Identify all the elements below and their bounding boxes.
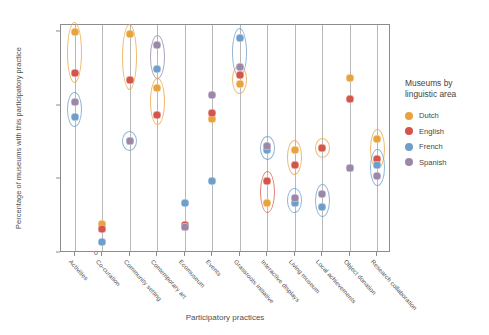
data-point bbox=[373, 172, 381, 180]
legend-swatch-icon bbox=[405, 158, 413, 166]
data-point bbox=[236, 71, 244, 79]
data-point bbox=[318, 203, 326, 211]
data-point bbox=[318, 144, 326, 152]
x-tick-label: Events bbox=[205, 258, 223, 277]
category-guide-line bbox=[75, 25, 76, 251]
y-axis-title: Percentage of museums with this particip… bbox=[0, 0, 7, 18]
y-axis-title-text: Percentage of museums with this particip… bbox=[14, 18, 23, 258]
category-guide-line bbox=[212, 25, 213, 251]
x-tick-mark bbox=[239, 252, 240, 256]
legend-item-label: English bbox=[419, 127, 444, 136]
data-point bbox=[181, 199, 189, 207]
legend-item-spanish[interactable]: Spanish bbox=[405, 156, 489, 169]
data-point bbox=[263, 177, 271, 185]
legend-swatch-icon bbox=[405, 112, 413, 120]
data-point bbox=[126, 76, 134, 84]
category-guide-line bbox=[322, 25, 323, 251]
data-point bbox=[346, 95, 354, 103]
x-tick-mark bbox=[156, 252, 157, 256]
legend-item-label: Spanish bbox=[419, 158, 446, 167]
x-tick-mark bbox=[74, 252, 75, 256]
data-point bbox=[373, 161, 381, 169]
data-point bbox=[98, 238, 106, 246]
legend-swatch-icon bbox=[405, 127, 413, 135]
data-point bbox=[126, 30, 134, 38]
data-point bbox=[126, 137, 134, 145]
category-guide-line bbox=[240, 25, 241, 251]
x-tick-label: Activities bbox=[68, 258, 90, 282]
data-point bbox=[71, 98, 79, 106]
legend-item-label: French bbox=[419, 142, 443, 151]
legend-item-english[interactable]: English bbox=[405, 125, 489, 138]
plot-frame bbox=[60, 24, 390, 252]
data-point bbox=[236, 34, 244, 42]
data-point bbox=[153, 65, 161, 73]
category-guide-line bbox=[102, 25, 103, 251]
x-tick-mark bbox=[321, 252, 322, 256]
category-guide-line bbox=[185, 25, 186, 251]
data-point bbox=[153, 84, 161, 92]
legend-entries: DutchEnglishFrenchSpanish bbox=[405, 109, 489, 169]
data-point bbox=[98, 225, 106, 233]
x-axis-title: Participatory practices bbox=[60, 313, 390, 322]
category-guide-line bbox=[267, 25, 268, 251]
legend-item-french[interactable]: French bbox=[405, 140, 489, 153]
data-point bbox=[71, 69, 79, 77]
data-point bbox=[291, 194, 299, 202]
data-point bbox=[208, 91, 216, 99]
legend-title-line1: Museums by bbox=[405, 78, 452, 88]
x-tick-mark bbox=[376, 252, 377, 256]
x-tick-label: Co-curation bbox=[95, 258, 122, 287]
data-point bbox=[236, 63, 244, 71]
x-tick-mark bbox=[129, 252, 130, 256]
data-point bbox=[263, 199, 271, 207]
legend-item-dutch[interactable]: Dutch bbox=[405, 109, 489, 122]
category-guide-line bbox=[157, 25, 158, 251]
x-tick-mark bbox=[349, 252, 350, 256]
legend-title: Museums by linguistic area bbox=[405, 78, 489, 100]
data-point bbox=[373, 135, 381, 143]
x-tick-label: Ecomuseum bbox=[178, 258, 207, 289]
data-point bbox=[153, 41, 161, 49]
category-guide-line bbox=[350, 25, 351, 251]
data-point bbox=[208, 177, 216, 185]
x-tick-mark bbox=[211, 252, 212, 256]
data-point bbox=[318, 190, 326, 198]
legend-swatch-icon bbox=[405, 143, 413, 151]
data-point bbox=[236, 80, 244, 88]
category-guide-line bbox=[295, 25, 296, 251]
data-point bbox=[346, 74, 354, 82]
chart-figure: Percentage of museums with this particip… bbox=[0, 0, 489, 335]
plot-area bbox=[61, 25, 389, 251]
data-point bbox=[346, 164, 354, 172]
x-tick-mark bbox=[184, 252, 185, 256]
data-point bbox=[71, 113, 79, 121]
legend-title-line2: linguistic area bbox=[405, 89, 456, 99]
x-tick-mark bbox=[294, 252, 295, 256]
data-point bbox=[153, 111, 161, 119]
legend: Museums by linguistic area DutchEnglishF… bbox=[405, 78, 489, 171]
data-point bbox=[71, 28, 79, 36]
legend-item-label: Dutch bbox=[419, 111, 439, 120]
data-point bbox=[291, 146, 299, 154]
data-point bbox=[291, 161, 299, 169]
x-tick-mark bbox=[101, 252, 102, 256]
x-tick-label: Research collaboration bbox=[370, 258, 419, 311]
x-tick-mark bbox=[266, 252, 267, 256]
data-point bbox=[181, 223, 189, 231]
